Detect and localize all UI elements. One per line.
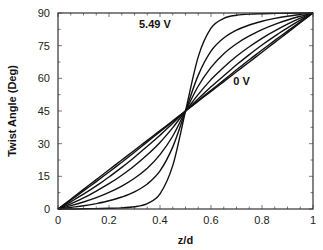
x-tick-label: 0.2	[101, 214, 116, 226]
annotation-label: 0 V	[233, 75, 250, 87]
x-tick-label: 0.6	[203, 214, 218, 226]
x-tick-label: 0.8	[254, 214, 269, 226]
curve-annotations: 5.49 V0 V	[139, 18, 251, 87]
twist-angle-chart: 00.20.40.60.81 0153045607590 z/d Twist A…	[0, 0, 323, 250]
y-tick-labels: 0153045607590	[38, 7, 50, 215]
y-tick-label: 60	[38, 72, 50, 84]
y-tick-label: 30	[38, 138, 50, 150]
x-axis-title: z/d	[178, 234, 193, 246]
y-tick-label: 75	[38, 40, 50, 52]
x-tick-labels: 00.20.40.60.81	[55, 214, 316, 226]
annotation-label: 5.49 V	[139, 18, 171, 30]
data-curves	[58, 13, 313, 209]
y-tick-label: 45	[38, 105, 50, 117]
x-tick-label: 1	[310, 214, 316, 226]
x-tick-label: 0.4	[152, 214, 167, 226]
y-tick-label: 90	[38, 7, 50, 19]
y-tick-label: 0	[44, 203, 50, 215]
x-tick-label: 0	[55, 214, 61, 226]
y-tick-label: 15	[38, 170, 50, 182]
y-axis-title: Twist Angle (Deg)	[6, 65, 18, 157]
